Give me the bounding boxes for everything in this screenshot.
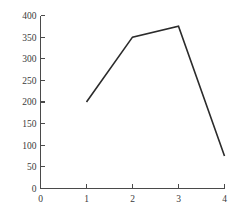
y-tick-label: 200 [22, 97, 37, 107]
y-tick-label: 150 [22, 119, 37, 129]
y-tick-label: 50 [27, 162, 37, 172]
y-tick-label: 0 [32, 184, 37, 194]
x-tick-label: 2 [130, 194, 135, 204]
x-tick-label: 0 [38, 194, 43, 204]
y-tick-label: 400 [22, 11, 37, 21]
x-tick-label: 3 [176, 194, 181, 204]
y-tick-label: 350 [22, 33, 37, 43]
axes-group [41, 16, 225, 189]
y-tick-label: 100 [22, 141, 37, 151]
x-axis-ticks: 01234 [38, 184, 227, 204]
y-tick-label: 300 [22, 54, 37, 64]
line-chart: 050100150200250300350400 01234 [0, 0, 238, 212]
y-axis-ticks: 050100150200250300350400 [22, 11, 45, 194]
data-line-series-0 [87, 26, 225, 156]
y-tick-label: 250 [22, 76, 37, 86]
x-tick-label: 1 [84, 194, 89, 204]
x-tick-label: 4 [222, 194, 227, 204]
data-series-group [87, 26, 225, 156]
chart-canvas: 050100150200250300350400 01234 [0, 0, 238, 212]
